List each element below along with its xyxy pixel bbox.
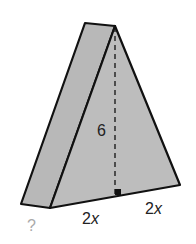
right-angle-marker bbox=[115, 189, 121, 195]
base-right-label: 2x bbox=[145, 200, 163, 217]
base-left-label: 2x bbox=[82, 210, 100, 227]
depth-unknown-label: ? bbox=[27, 217, 36, 234]
height-label: 6 bbox=[97, 122, 106, 139]
prism-diagram: 6 ? 2x 2x bbox=[0, 0, 196, 244]
